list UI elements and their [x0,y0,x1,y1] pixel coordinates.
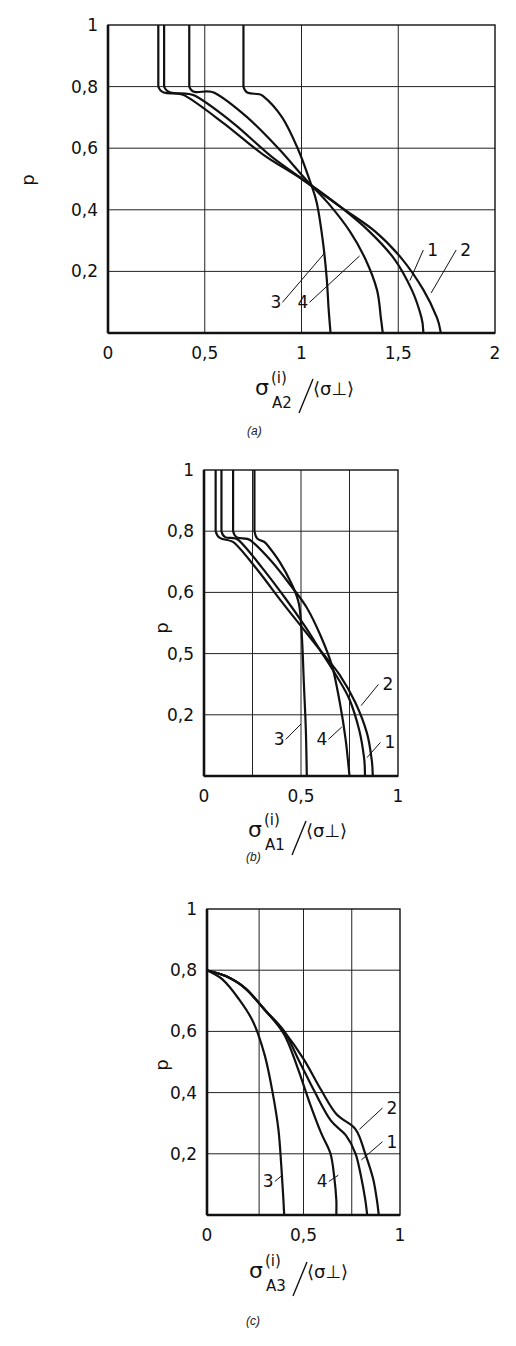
curve-label-3: 3 [263,1171,274,1191]
y-tick-label: 0,8 [71,77,98,97]
curve-label-1: 1 [427,240,438,260]
y-tick-label: 0,8 [167,521,194,541]
x-tick-label: 0 [202,1225,213,1245]
x-axis-label: σ(i)A2⟨σ⊥⟩ [255,369,354,413]
x-label-superscript: (i) [271,369,287,387]
leader-line [310,256,360,302]
x-tick-label: 1 [395,1225,406,1245]
curve-4 [189,25,382,333]
y-tick-label: 0,4 [170,1083,197,1103]
y-axis-label: p [151,622,172,633]
curve-1 [164,25,423,333]
x-tick-label: 1 [393,786,404,806]
x-label-sigma: σ [255,375,269,400]
x-label-subscript: A1 [265,836,285,854]
leader-line [359,1108,382,1129]
chart-c: 123400,510,20,40,60,81pσ(i)A3⟨σ⊥⟩ [151,899,405,1296]
curve-label-3: 3 [270,292,281,312]
y-tick-label: 0,5 [167,644,194,664]
y-tick-label: 0,2 [170,1144,197,1164]
curve-3 [243,25,330,333]
curve-label-4: 4 [317,1171,328,1191]
y-tick-label: 0,2 [167,705,194,725]
fraction-slash [293,1262,307,1296]
y-tick-label: 0,6 [170,1021,197,1041]
leader-line [286,724,301,739]
x-label-superscript: (i) [265,1252,281,1270]
curve-label-3: 3 [274,729,285,749]
figure-canvas: 123400,511,520,20,40,60,81pσ(i)A2⟨σ⊥⟩123… [0,0,516,1346]
y-tick-label: 0,2 [71,261,98,281]
y-tick-label: 1 [186,899,197,919]
x-tick-label: 1,5 [385,343,412,363]
x-label-denominator: ⟨σ⊥⟩ [307,1261,348,1282]
x-label-sigma: σ [249,1258,263,1283]
x-tick-label: 0 [199,786,210,806]
x-label-subscript: A2 [272,394,292,412]
x-label-denominator: ⟨σ⊥⟩ [313,378,354,399]
curve-label-4: 4 [298,292,309,312]
caption-b: (b) [246,850,261,864]
leader-line [410,250,423,281]
x-label-subscript: A3 [266,1277,286,1295]
curve-label-2: 2 [460,240,471,260]
curve-label-4: 4 [316,729,327,749]
fraction-slash [292,821,306,855]
y-tick-label: 0,8 [170,960,197,980]
x-axis-label: σ(i)A3⟨σ⊥⟩ [249,1252,348,1296]
curve-label-1: 1 [386,1132,397,1152]
chart-b: 123400,510,20,50,60,81pσ(i)A1⟨σ⊥⟩ [151,460,403,855]
y-tick-label: 1 [87,15,98,35]
x-tick-label: 0,5 [287,786,314,806]
caption-a: (a) [247,424,262,438]
y-axis-label: p [17,174,38,185]
chart-a: 123400,511,520,20,40,60,81pσ(i)A2⟨σ⊥⟩ [17,15,500,413]
curve-label-2: 2 [382,674,393,694]
fraction-slash [299,379,313,413]
y-tick-label: 0,4 [71,200,98,220]
x-tick-label: 2 [490,343,501,363]
x-tick-label: 1 [296,343,307,363]
x-axis-label: σ(i)A1⟨σ⊥⟩ [248,811,347,855]
x-tick-label: 0 [103,343,114,363]
x-label-sigma: σ [248,817,262,842]
leader-line [328,727,341,739]
x-label-superscript: (i) [264,811,280,829]
curve-label-1: 1 [384,732,395,752]
y-tick-label: 0,6 [167,582,194,602]
curve-4 [233,470,349,776]
x-label-denominator: ⟨σ⊥⟩ [306,820,347,841]
leader-line [361,684,378,705]
curve-label-2: 2 [386,1098,397,1118]
y-tick-label: 1 [183,460,194,480]
x-tick-label: 0,5 [290,1225,317,1245]
y-axis-label: p [151,1059,172,1070]
caption-c: (c) [246,1314,260,1328]
x-tick-label: 0,5 [191,343,218,363]
y-tick-label: 0,6 [71,138,98,158]
